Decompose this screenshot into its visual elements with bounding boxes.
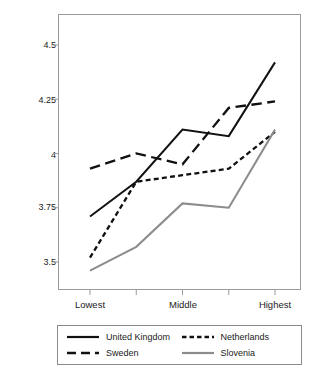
series-line-united-kingdom bbox=[90, 62, 275, 216]
chart-figure: Health Average 4.5 4.25 4 3.75 3.5 Lowes… bbox=[0, 0, 319, 374]
legend-item-sweden: Sweden bbox=[66, 348, 181, 358]
legend-item-slovenia: Slovenia bbox=[181, 348, 296, 358]
plot-area bbox=[0, 0, 319, 374]
series-line-slovenia bbox=[90, 130, 275, 271]
legend-swatch-dotted-dark bbox=[181, 332, 215, 342]
series-lines bbox=[90, 62, 275, 270]
legend-swatch-dashed-dark bbox=[66, 348, 100, 358]
legend-label: Sweden bbox=[106, 348, 139, 358]
legend-label: Netherlands bbox=[221, 332, 270, 342]
y-axis-ticks bbox=[53, 45, 59, 262]
legend-item-united-kingdom: United Kingdom bbox=[66, 332, 181, 342]
legend-label: United Kingdom bbox=[106, 332, 170, 342]
legend-label: Slovenia bbox=[221, 348, 256, 358]
legend-swatch-solid-gray bbox=[181, 348, 215, 358]
legend-swatch-solid-dark bbox=[66, 332, 100, 342]
series-line-sweden bbox=[90, 101, 275, 168]
x-axis-ticks bbox=[90, 290, 275, 296]
legend: United Kingdom Netherlands Sweden Sloven… bbox=[57, 325, 302, 365]
legend-item-netherlands: Netherlands bbox=[181, 332, 296, 342]
